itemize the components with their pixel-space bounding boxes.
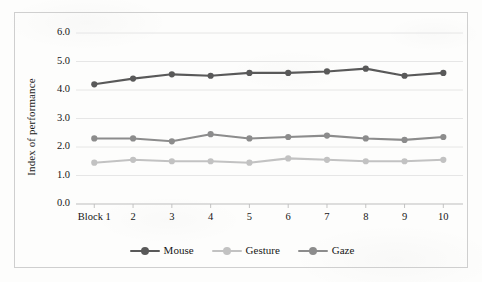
data-point bbox=[401, 73, 407, 79]
data-point bbox=[169, 71, 175, 77]
data-point bbox=[401, 158, 407, 164]
data-point bbox=[130, 135, 136, 141]
series-line bbox=[94, 158, 443, 162]
series-gaze bbox=[91, 131, 446, 144]
y-axis-title: Index of performance bbox=[25, 67, 37, 187]
chart-figure: Index of performance 0.01.02.03.04.05.06… bbox=[0, 0, 482, 282]
data-point bbox=[91, 81, 97, 87]
data-point bbox=[285, 134, 291, 140]
legend-marker-icon bbox=[130, 246, 160, 256]
series-mouse bbox=[91, 66, 446, 88]
legend-item-gesture[interactable]: Gesture bbox=[212, 245, 280, 256]
plot-area bbox=[15, 13, 469, 269]
data-point bbox=[363, 135, 369, 141]
x-tick-marks-group bbox=[94, 204, 443, 208]
legend-item-mouse[interactable]: Mouse bbox=[130, 245, 194, 256]
y-tick-label: 0.0 bbox=[40, 197, 70, 208]
series-gesture bbox=[91, 155, 446, 165]
legend-label: Mouse bbox=[164, 245, 194, 256]
data-point bbox=[324, 133, 330, 139]
legend-marker-icon bbox=[298, 246, 328, 256]
data-point bbox=[91, 135, 97, 141]
data-point bbox=[169, 158, 175, 164]
y-tick-label: 4.0 bbox=[40, 83, 70, 94]
y-tick-label: 5.0 bbox=[40, 55, 70, 66]
data-point bbox=[130, 76, 136, 82]
data-point bbox=[285, 155, 291, 161]
data-point bbox=[285, 70, 291, 76]
x-tick-label: 10 bbox=[417, 211, 469, 222]
legend-label: Gesture bbox=[246, 245, 280, 256]
data-point bbox=[208, 158, 214, 164]
data-point bbox=[363, 158, 369, 164]
y-tick-label: 2.0 bbox=[40, 140, 70, 151]
data-point bbox=[440, 70, 446, 76]
data-point bbox=[169, 138, 175, 144]
chart-frame: Index of performance 0.01.02.03.04.05.06… bbox=[14, 12, 468, 268]
legend-label: Gaze bbox=[332, 245, 355, 256]
series-line bbox=[94, 134, 443, 141]
legend-item-gaze[interactable]: Gaze bbox=[298, 245, 355, 256]
data-point bbox=[208, 131, 214, 137]
y-tick-label: 3.0 bbox=[40, 112, 70, 123]
chart-legend: MouseGestureGaze bbox=[15, 245, 469, 256]
y-tick-label: 1.0 bbox=[40, 169, 70, 180]
data-point bbox=[130, 157, 136, 163]
series-line bbox=[94, 69, 443, 85]
legend-marker-icon bbox=[212, 246, 242, 256]
data-point bbox=[440, 134, 446, 140]
data-point bbox=[246, 70, 252, 76]
data-point bbox=[208, 73, 214, 79]
y-tick-label: 6.0 bbox=[40, 26, 70, 37]
data-point bbox=[246, 160, 252, 166]
data-point bbox=[401, 137, 407, 143]
data-point bbox=[91, 160, 97, 166]
data-point bbox=[246, 135, 252, 141]
data-point bbox=[363, 66, 369, 72]
data-point bbox=[440, 157, 446, 163]
data-point bbox=[324, 157, 330, 163]
data-series-group bbox=[91, 66, 446, 166]
gridlines-group bbox=[76, 33, 463, 204]
data-point bbox=[324, 68, 330, 74]
